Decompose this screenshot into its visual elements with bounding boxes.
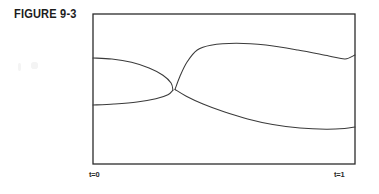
tick-label-t0: t=0 xyxy=(89,170,99,179)
tick-label-t1: t=1 xyxy=(334,170,344,179)
figure-page: FIGURE 9-3 t=0 t=1 xyxy=(0,0,379,194)
plot-frame xyxy=(93,14,355,164)
figure-diagram xyxy=(0,0,379,194)
